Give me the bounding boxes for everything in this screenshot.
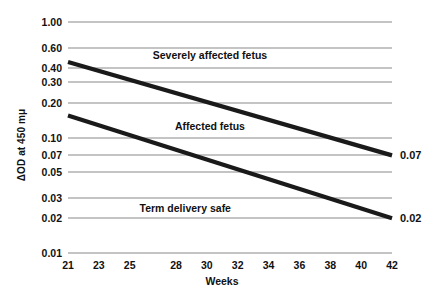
x-axis-tick-label: 34	[263, 259, 275, 271]
x-axis-tick-label: 36	[294, 259, 306, 271]
zone-annotation: Severely affected fetus	[151, 49, 269, 61]
series-end-value-label: 0.02	[400, 212, 421, 224]
x-axis-tick-group: 2123252830323436384042	[0, 0, 444, 290]
x-axis-tick-label: 32	[232, 259, 244, 271]
zone-annotation: Affected fetus	[173, 120, 247, 132]
x-axis-tick-label: 23	[93, 259, 105, 271]
x-axis-tick-label: 38	[324, 259, 336, 271]
x-axis-tick-label: 30	[201, 259, 213, 271]
x-axis-title: Weeks	[0, 275, 444, 287]
chart-container: ΔOD at 450 mμ 1.000.600.400.300.200.100.…	[0, 0, 444, 290]
x-axis-tick-label: 28	[170, 259, 182, 271]
x-axis-tick-label: 42	[386, 259, 398, 271]
series-end-value-label: 0.07	[400, 149, 421, 161]
zone-annotation: Term delivery safe	[138, 202, 233, 214]
x-axis-tick-label: 25	[124, 259, 136, 271]
x-axis-tick-label: 40	[355, 259, 367, 271]
x-axis-tick-label: 21	[62, 259, 74, 271]
